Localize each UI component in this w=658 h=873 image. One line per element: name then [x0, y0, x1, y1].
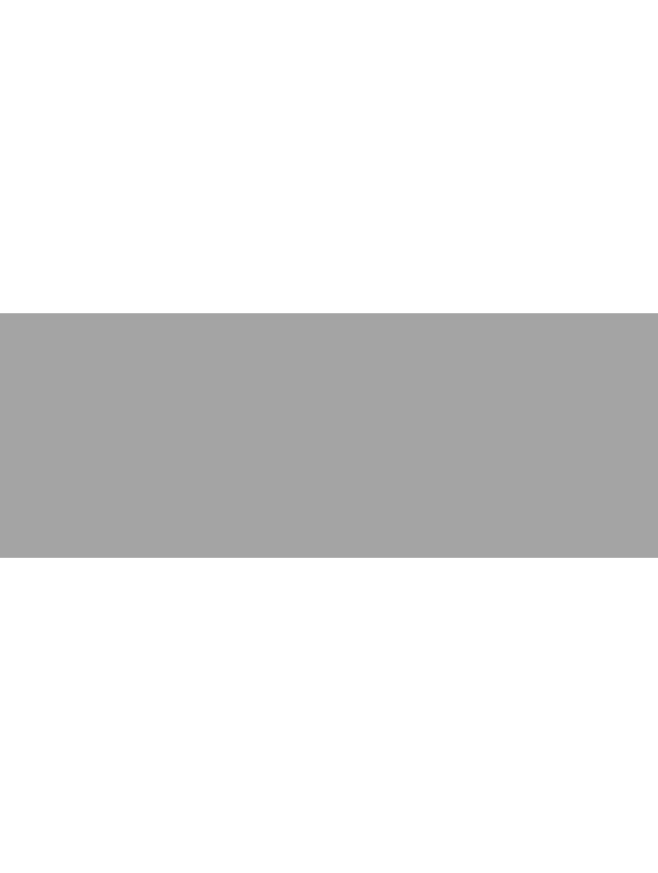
blank-page — [0, 0, 658, 873]
gray-placeholder-band — [0, 313, 658, 558]
